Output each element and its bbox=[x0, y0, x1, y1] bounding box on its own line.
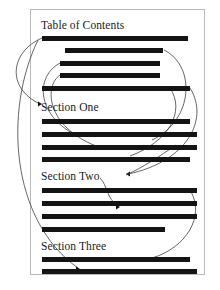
text-bar bbox=[42, 36, 188, 41]
heading-section-two[interactable]: Section Two bbox=[41, 170, 100, 182]
text-bar bbox=[60, 61, 160, 66]
document-content: Table of ContentsSection OneSection TwoS… bbox=[0, 0, 220, 290]
text-bar bbox=[65, 48, 163, 53]
text-bar bbox=[42, 119, 190, 124]
text-bar bbox=[42, 201, 197, 206]
text-bar bbox=[42, 269, 197, 274]
heading-section-one[interactable]: Section One bbox=[41, 101, 99, 113]
text-bar bbox=[42, 257, 190, 262]
text-bar bbox=[42, 188, 197, 193]
text-bar bbox=[42, 214, 197, 219]
text-bar bbox=[60, 73, 160, 78]
heading-section-three[interactable]: Section Three bbox=[41, 240, 106, 252]
text-bar bbox=[42, 157, 190, 162]
text-bar bbox=[42, 132, 197, 137]
text-bar bbox=[42, 145, 197, 150]
heading-toc[interactable]: Table of Contents bbox=[41, 19, 124, 31]
text-bar bbox=[42, 86, 190, 91]
toc-link-diagram: Table of ContentsSection OneSection TwoS… bbox=[0, 0, 220, 290]
text-bar bbox=[42, 227, 165, 232]
